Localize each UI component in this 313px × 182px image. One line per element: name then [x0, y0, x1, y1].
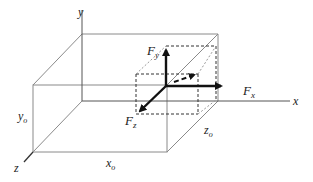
z-axis-label: z — [13, 161, 19, 175]
rectangular-box — [33, 34, 218, 152]
y-dimension-label: yo — [17, 109, 27, 125]
fz-label: Fz — [124, 113, 137, 130]
x-axis-label: x — [292, 94, 299, 108]
x-dimension-label: xo — [105, 156, 115, 172]
fx-label: Fx — [242, 83, 255, 100]
fz-arrow — [140, 86, 166, 111]
z-axis — [24, 152, 33, 162]
fy-label: Fy — [146, 43, 159, 60]
force-diagram: y x z yo xo zo Fy Fx Fz — [0, 0, 313, 182]
labels: y x z yo xo zo Fy Fx Fz — [13, 5, 299, 175]
resultant-arrow — [174, 75, 194, 82]
y-axis-label: y — [77, 5, 84, 19]
z-dimension-label: zo — [203, 123, 213, 139]
